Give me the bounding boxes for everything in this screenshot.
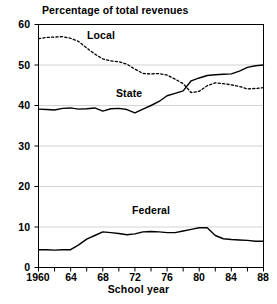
series-label-local: Local [86,29,116,41]
series-line-local [39,37,264,93]
y-tick-label-60: 60 [2,19,30,29]
tick-marks [35,25,264,272]
x-tick-label-1988: 88 [243,272,277,282]
series-label-state: State [115,87,143,99]
y-tick-label-40: 40 [2,100,30,110]
series-label-federal: Federal [131,204,171,216]
y-tick-label-30: 30 [2,141,30,151]
gridlines [39,65,264,227]
series-lines [39,37,264,250]
plot-area [0,0,277,304]
chart-title: Percentage of total revenues [42,4,188,16]
x-axis-title: School year [0,283,277,295]
y-tick-label-10: 10 [2,222,30,232]
revenue-line-chart: Percentage of total revenues 60 50 40 30… [0,0,277,304]
y-tick-label-50: 50 [2,60,30,70]
plot-frame [39,25,264,268]
series-line-state [39,65,264,113]
series-line-federal [39,228,264,250]
y-tick-label-20: 20 [2,181,30,191]
